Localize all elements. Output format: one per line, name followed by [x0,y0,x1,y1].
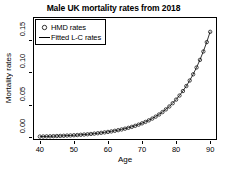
x-tick-label: 60 [104,145,112,154]
legend-label-fitted-lc-rates: Fitted L-C rates [51,33,101,42]
x-tick-label: 40 [36,145,44,154]
circle-marker-icon [38,24,51,31]
y-tick-mark [29,137,32,138]
fitted-lc-line [40,32,210,137]
legend-item-hmd-rates: HMD rates [38,22,101,32]
x-tick-label: 50 [70,145,78,154]
x-tick-mark [74,141,75,144]
y-tick-label: 0.15 [18,21,27,36]
legend-label-hmd-rates: HMD rates [51,23,86,32]
x-tick-label: 70 [138,145,146,154]
x-tick-mark [176,141,177,144]
y-tick-label: 0.05 [18,87,27,102]
chart-page: Male UK mortality rates from 2018 Mortal… [0,0,227,173]
x-tick-mark [40,141,41,144]
legend-item-fitted-lc-rates: Fitted L-C rates [38,32,101,42]
line-marker-icon [38,37,51,38]
chart-legend: HMD rates Fitted L-C rates [35,19,106,45]
y-tick-mark [29,105,32,106]
y-tick-label: 0.00 [18,119,27,134]
x-tick-label: 80 [172,145,180,154]
y-tick-mark [29,40,32,41]
x-tick-mark [108,141,109,144]
y-axis-title-label: Mortality rates [4,53,13,103]
hmd-rates-points [38,30,212,138]
y-tick-mark [29,72,32,73]
x-tick-label: 90 [206,145,214,154]
x-tick-mark [142,141,143,144]
y-tick-label: 0.10 [18,54,27,69]
y-axis-title: Mortality rates [2,17,14,140]
x-axis-title: Age [33,155,217,164]
chart-title: Male UK mortality rates from 2018 [0,3,227,13]
x-tick-mark [210,141,211,144]
